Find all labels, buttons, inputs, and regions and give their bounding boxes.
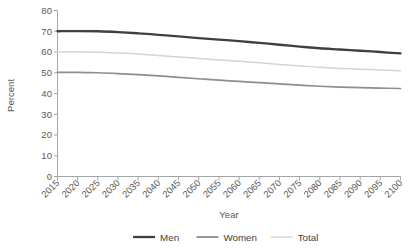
y-tick-label: 50 — [41, 67, 52, 78]
series-line-women — [58, 72, 401, 88]
y-tick-label: 20 — [41, 129, 52, 140]
x-tick-label: 2060 — [220, 177, 243, 200]
chart-figure: 01020304050607080 2015202020252030203520… — [0, 0, 420, 249]
x-tick-label: 2075 — [281, 177, 304, 200]
x-axis-tick-labels: 2015202020252030203520402045205020552060… — [39, 177, 405, 200]
x-tick-label: 2020 — [59, 177, 82, 200]
x-axis-title: Year — [219, 209, 239, 220]
y-tick-label: 60 — [41, 46, 52, 57]
legend-label-men: Men — [160, 232, 179, 243]
x-tick-label: 2025 — [79, 177, 102, 200]
series-line-total — [58, 52, 401, 71]
y-tick-label: 30 — [41, 109, 52, 120]
y-axis-tick-marks — [54, 11, 58, 177]
x-tick-label: 2080 — [301, 177, 324, 200]
y-tick-label: 40 — [41, 88, 52, 99]
y-axis-title: Percent — [5, 79, 16, 112]
x-tick-label: 2085 — [321, 177, 344, 200]
chart-legend: MenWomenTotal — [133, 232, 318, 243]
x-tick-label: 2095 — [362, 177, 385, 200]
x-tick-label: 2070 — [261, 177, 284, 200]
line-chart: 01020304050607080 2015202020252030203520… — [0, 0, 420, 249]
x-tick-label: 2030 — [99, 177, 122, 200]
y-tick-label: 10 — [41, 150, 52, 161]
x-axis-tick-marks — [58, 177, 401, 181]
y-tick-label: 80 — [41, 5, 52, 16]
x-tick-label: 2055 — [200, 177, 223, 200]
series-line-men — [58, 31, 401, 53]
x-tick-label: 2050 — [180, 177, 203, 200]
x-tick-label: 2040 — [140, 177, 163, 200]
y-tick-label: 70 — [41, 26, 52, 37]
x-tick-label: 2045 — [160, 177, 183, 200]
x-tick-label: 2015 — [39, 177, 62, 200]
x-tick-label: 2065 — [241, 177, 264, 200]
x-tick-label: 2035 — [120, 177, 143, 200]
data-series-group — [58, 31, 401, 88]
x-tick-label: 2100 — [382, 177, 405, 200]
x-tick-label: 2090 — [342, 177, 365, 200]
legend-label-women: Women — [223, 232, 257, 243]
y-axis-tick-labels: 01020304050607080 — [41, 5, 52, 182]
legend-label-total: Total — [298, 232, 319, 243]
